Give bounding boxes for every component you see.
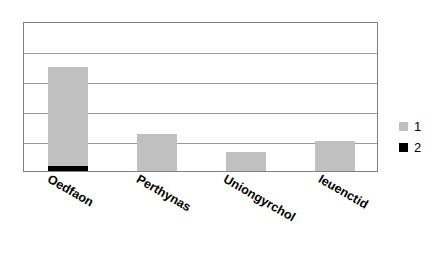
bar-segment-series-1 [48, 67, 88, 166]
bar-segment-series-1 [226, 152, 266, 171]
bar-segment-series-1 [137, 134, 177, 171]
x-axis-labels: OedfaonPerthynasUniongyrcholIeuenctid [23, 172, 378, 267]
legend-label: 1 [414, 120, 421, 133]
bar-segment-series-2 [48, 166, 88, 171]
bars-layer [24, 23, 377, 171]
legend-label: 2 [414, 141, 421, 154]
legend-item-1[interactable]: 1 [399, 116, 443, 137]
legend-swatch-icon [399, 122, 408, 131]
x-axis-label-perthynas: Perthynas [134, 172, 193, 214]
bar-group [202, 23, 291, 171]
bar-group [290, 23, 379, 171]
bar-stack [315, 141, 355, 171]
x-axis-label-ieuenctid: Ieuenctid [316, 172, 371, 212]
bar-segment-series-1 [315, 141, 355, 171]
bar-group [113, 23, 202, 171]
chart-legend: 12 [399, 116, 443, 158]
x-axis-label-oedfaon: Oedfaon [45, 172, 96, 209]
legend-item-2[interactable]: 2 [399, 137, 443, 158]
bar-stack [226, 152, 266, 171]
bar-stack [137, 134, 177, 171]
bar-group [24, 23, 113, 171]
bar-stack [48, 67, 88, 171]
plot-area [23, 22, 378, 172]
legend-swatch-icon [399, 143, 408, 152]
x-axis-label-uniongyrchol: Uniongyrchol [221, 172, 298, 224]
bar-chart: OedfaonPerthynasUniongyrcholIeuenctid 12 [0, 0, 445, 274]
